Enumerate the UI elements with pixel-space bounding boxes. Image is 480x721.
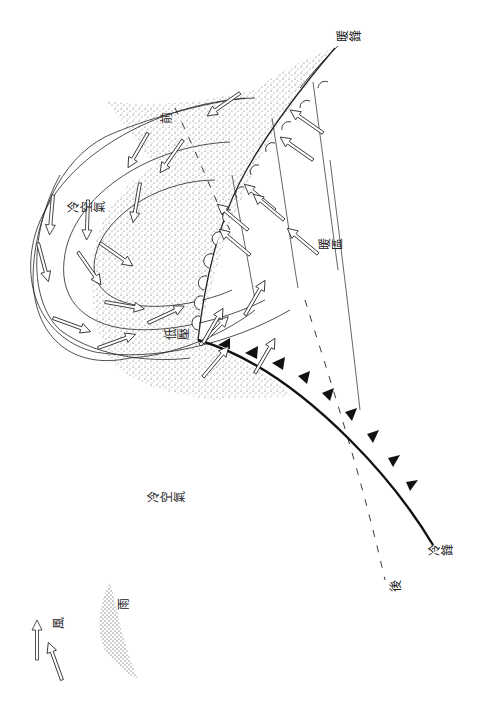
cold-air-lower-label: 冷空氣	[147, 489, 186, 506]
legend-wind-label: 風	[52, 615, 65, 632]
rear-label: 後	[389, 578, 402, 595]
warm-sector-label: 暖區	[318, 237, 344, 254]
rain-area	[92, 48, 330, 400]
front-ahead-label: 前	[160, 110, 173, 127]
cold-front-label: 冷鋒	[428, 543, 454, 560]
cyclone-diagram	[0, 0, 480, 721]
low-pressure-label: 低壓	[164, 327, 190, 344]
cold-air-upper-label: 冷空氣	[67, 199, 106, 216]
legend-rain-label: 雨	[117, 596, 130, 613]
warm-front-label: 暖鋒	[336, 29, 362, 46]
